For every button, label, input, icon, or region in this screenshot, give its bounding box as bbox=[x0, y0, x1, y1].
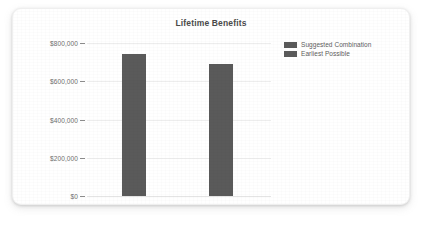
legend-swatch-icon bbox=[284, 42, 297, 48]
plot-area: $800,000$600,000$400,000$200,000$0 bbox=[87, 43, 271, 196]
y-axis-tick-mark bbox=[80, 81, 85, 82]
y-axis-tick-mark bbox=[80, 120, 85, 121]
y-axis-tick-mark bbox=[80, 158, 85, 159]
bar[interactable] bbox=[122, 54, 146, 196]
chart-title: Lifetime Benefits bbox=[13, 18, 409, 28]
y-axis-tick-label: $400,000 bbox=[50, 116, 78, 123]
legend-item-suggested-combination[interactable]: Suggested Combination bbox=[284, 41, 404, 48]
legend-swatch-icon bbox=[284, 51, 297, 57]
gridline bbox=[87, 81, 271, 82]
y-axis-tick-label: $800,000 bbox=[50, 40, 78, 47]
gridline bbox=[87, 43, 271, 44]
gridline bbox=[87, 196, 271, 197]
y-axis-tick-label: $200,000 bbox=[50, 154, 78, 161]
chart-card: Lifetime Benefits $800,000$600,000$400,0… bbox=[12, 8, 410, 205]
y-axis-tick-label: $0 bbox=[71, 193, 78, 200]
y-axis-tick-mark bbox=[80, 43, 85, 44]
legend-item-label: Suggested Combination bbox=[301, 41, 371, 48]
chart-legend: Suggested Combination Earliest Possible bbox=[284, 41, 404, 59]
y-axis-tick-mark bbox=[80, 196, 85, 197]
legend-item-label: Earliest Possible bbox=[301, 50, 350, 57]
legend-item-earliest-possible[interactable]: Earliest Possible bbox=[284, 50, 404, 57]
gridline bbox=[87, 158, 271, 159]
bar[interactable] bbox=[209, 64, 233, 196]
y-axis-tick-label: $600,000 bbox=[50, 78, 78, 85]
gridline bbox=[87, 120, 271, 121]
screenshot-root: Lifetime Benefits $800,000$600,000$400,0… bbox=[0, 0, 435, 225]
